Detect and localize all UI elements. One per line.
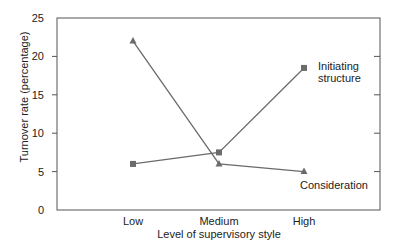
series-label-consideration: Consideration [300, 179, 368, 191]
triangle-marker-icon [130, 37, 137, 44]
square-marker-icon [301, 65, 307, 71]
x-category-label: Medium [189, 215, 249, 227]
x-category-label: High [274, 215, 334, 227]
series-label-line-1: Initiating [318, 60, 361, 72]
x-axis-title: Level of supervisory style [0, 228, 398, 240]
y-tick-label: 0 [24, 204, 44, 216]
series-label-line-2: structure [318, 72, 361, 84]
x-category-label: Low [103, 215, 163, 227]
series-label-initiating-structure: Initiating structure [318, 60, 361, 84]
square-marker-icon [216, 149, 222, 155]
y-axis-title: Turnover rate (percentage) [18, 22, 30, 172]
square-marker-icon [130, 161, 136, 167]
line-chart: 0510152025 LowMediumHigh Turnover rate (… [0, 0, 398, 249]
plot-area [0, 0, 398, 249]
